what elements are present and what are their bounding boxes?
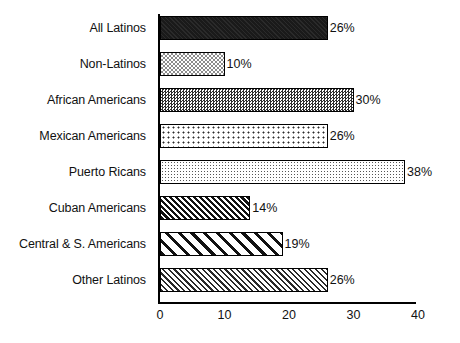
footer-cut-off-text: [52, 333, 352, 343]
bar-value-label-7: 26%: [330, 273, 355, 287]
category-label-1: Non-Latinos: [0, 57, 146, 71]
bar-4: [160, 160, 405, 184]
category-label-2: African Americans: [0, 93, 146, 107]
x-axis-line: [158, 302, 416, 304]
category-label-5: Cuban Americans: [0, 201, 146, 215]
x-tick-label-0: 0: [157, 308, 164, 322]
x-tick-label-3: 30: [347, 308, 361, 322]
category-label-3: Mexican Americans: [0, 129, 146, 143]
bar-chart: All LatinosNon-LatinosAfrican AmericansM…: [0, 0, 460, 343]
category-label-0: All Latinos: [0, 21, 146, 35]
bar-2: [160, 88, 354, 112]
bar-0: [160, 16, 328, 40]
category-label-4: Puerto Ricans: [0, 165, 146, 179]
bar-value-label-2: 30%: [356, 93, 381, 107]
bar-1: [160, 52, 225, 76]
bar-value-label-4: 38%: [407, 165, 432, 179]
category-label-6: Central & S. Americans: [0, 237, 146, 251]
x-tick-label-1: 10: [218, 308, 232, 322]
bar-value-label-5: 14%: [252, 201, 277, 215]
category-axis-labels: All LatinosNon-LatinosAfrican AmericansM…: [0, 14, 152, 302]
bar-value-label-6: 19%: [285, 237, 310, 251]
bar-value-label-1: 10%: [227, 57, 252, 71]
bar-value-label-0: 26%: [330, 21, 355, 35]
plot-area: 26%10%30%26%38%14%19%26%010203040: [158, 14, 418, 302]
bar-3: [160, 124, 328, 148]
category-label-7: Other Latinos: [0, 273, 146, 287]
bar-5: [160, 196, 250, 220]
x-tick-label-4: 40: [411, 308, 425, 322]
bar-6: [160, 232, 283, 256]
x-tick-label-2: 20: [282, 308, 296, 322]
bar-7: [160, 268, 328, 292]
bar-value-label-3: 26%: [330, 129, 355, 143]
